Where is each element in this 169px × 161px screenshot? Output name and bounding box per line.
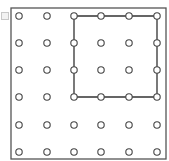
peg-r4-c2 [44, 94, 50, 100]
peg-r4-c6 [154, 94, 160, 100]
peg-r5-c2 [44, 122, 50, 128]
board-frame [11, 8, 166, 159]
peg-r2-c1 [16, 40, 22, 46]
peg-r4-c1 [16, 94, 22, 100]
peg-r3-c6 [154, 67, 160, 73]
peg-r6-c1 [16, 149, 22, 155]
peg-r1-c5 [126, 13, 132, 19]
peg-r6-c2 [44, 149, 50, 155]
geoboard [0, 0, 169, 161]
peg-r3-c3 [71, 67, 77, 73]
peg-r2-c3 [71, 40, 77, 46]
peg-r6-c3 [71, 149, 77, 155]
peg-r1-c6 [154, 13, 160, 19]
peg-r3-c4 [98, 67, 104, 73]
peg-r2-c5 [126, 40, 132, 46]
peg-r3-c5 [126, 67, 132, 73]
peg-r3-c2 [44, 67, 50, 73]
peg-r2-c2 [44, 40, 50, 46]
peg-r1-c3 [71, 13, 77, 19]
peg-r5-c5 [126, 122, 132, 128]
peg-r5-c3 [71, 122, 77, 128]
peg-r5-c6 [154, 122, 160, 128]
peg-r4-c3 [71, 94, 77, 100]
peg-r3-c1 [16, 67, 22, 73]
peg-r6-c5 [126, 149, 132, 155]
peg-r1-c4 [98, 13, 104, 19]
peg-r4-c5 [126, 94, 132, 100]
rubber-band-square [74, 16, 157, 97]
peg-r5-c1 [16, 122, 22, 128]
peg-r2-c4 [98, 40, 104, 46]
peg-r4-c4 [98, 94, 104, 100]
peg-grid [16, 13, 160, 155]
peg-r6-c4 [98, 149, 104, 155]
peg-r5-c4 [98, 122, 104, 128]
peg-r1-c1 [16, 13, 22, 19]
peg-r1-c2 [44, 13, 50, 19]
peg-r6-c6 [154, 149, 160, 155]
peg-r2-c6 [154, 40, 160, 46]
